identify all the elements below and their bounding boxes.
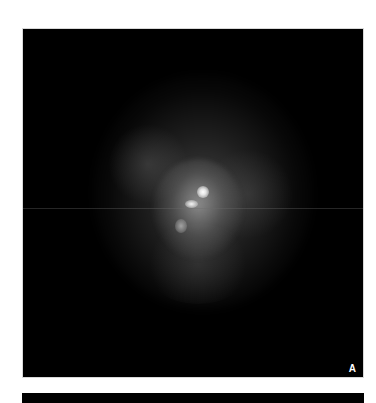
microscopy-panel-a: A [22, 28, 364, 378]
panel-label: A [349, 363, 356, 374]
cell-core-glow [153, 159, 243, 259]
scan-artifact-line [23, 208, 363, 209]
dim-punctum [175, 219, 187, 233]
bright-punctum [197, 186, 209, 198]
bright-punctum [185, 200, 198, 208]
microscopy-panel-b [22, 393, 364, 403]
